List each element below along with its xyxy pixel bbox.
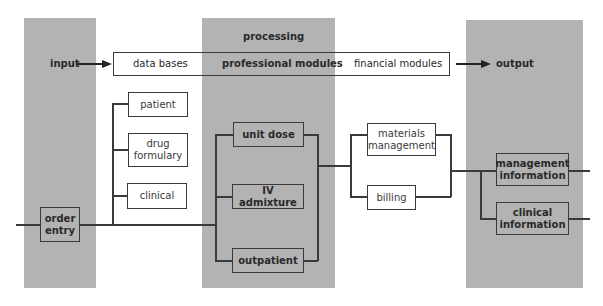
outpatient-box: outpatient xyxy=(232,248,304,273)
drug-formulary-connector xyxy=(112,149,128,151)
outpatient-out xyxy=(303,260,318,262)
materials-management-box: materials management xyxy=(367,123,436,156)
iv-admixture-box: IV admixture xyxy=(232,184,304,209)
output-bracket xyxy=(480,170,482,219)
order-entry-line2: entry xyxy=(45,225,75,237)
materials-line2: management xyxy=(368,140,435,152)
outpatient-in xyxy=(215,260,233,262)
management-info-line1: management xyxy=(495,158,569,170)
unit-dose-label: unit dose xyxy=(242,129,295,141)
clinical-db-box: clinical xyxy=(127,183,187,209)
management-info-line2: information xyxy=(499,170,565,182)
drug-formulary-box: drug formulary xyxy=(128,133,188,167)
billing-box: billing xyxy=(367,185,416,210)
billing-label: billing xyxy=(376,192,406,204)
unit-dose-out xyxy=(303,134,318,136)
clinical-connector xyxy=(112,195,128,197)
materials-out xyxy=(435,134,451,136)
professional-left-bracket xyxy=(215,134,217,261)
order-entry-line1: order xyxy=(45,213,76,225)
iv-admixture-label: IV admixture xyxy=(233,185,303,209)
financial-right-bracket xyxy=(450,134,452,197)
input-arrow-line xyxy=(77,63,103,65)
financial-to-output-line xyxy=(450,170,497,172)
financial-modules-label: financial modules xyxy=(354,58,442,69)
unit-dose-in xyxy=(215,134,233,136)
billing-in xyxy=(350,196,367,198)
management-info-out xyxy=(568,170,590,172)
patient-label: patient xyxy=(140,99,176,111)
iv-in xyxy=(215,196,233,198)
data-bases-label: data bases xyxy=(133,58,188,69)
clinical-info-line1: clinical xyxy=(513,207,552,219)
financial-left-bracket xyxy=(350,134,352,197)
input-label: input xyxy=(50,58,80,69)
professional-to-financial-line xyxy=(317,165,351,167)
unit-dose-box: unit dose xyxy=(233,122,304,147)
management-information-box: management information xyxy=(496,153,569,186)
clinical-info-line2: information xyxy=(499,219,565,231)
clinical-info-out xyxy=(568,218,590,220)
drug-formulary-line2: formulary xyxy=(134,150,183,162)
materials-in xyxy=(350,134,367,136)
processing-label: processing xyxy=(243,31,304,42)
output-arrow-icon xyxy=(481,60,491,68)
clinical-information-box: clinical information xyxy=(496,202,569,235)
professional-modules-label: professional modules xyxy=(222,58,343,69)
output-label: output xyxy=(496,58,534,69)
patient-box: patient xyxy=(128,92,188,117)
billing-out xyxy=(415,196,451,198)
databases-bracket xyxy=(112,103,114,225)
input-arrow-icon xyxy=(102,60,112,68)
patient-connector xyxy=(112,103,128,105)
drug-formulary-line1: drug xyxy=(146,138,169,150)
order-entry-box: order entry xyxy=(40,207,80,242)
materials-line1: materials xyxy=(378,128,425,140)
output-arrow-line xyxy=(456,63,482,65)
outpatient-label: outpatient xyxy=(238,255,298,267)
clinical-db-label: clinical xyxy=(140,190,175,202)
professional-right-bracket xyxy=(317,134,319,261)
clinical-info-in xyxy=(480,218,497,220)
